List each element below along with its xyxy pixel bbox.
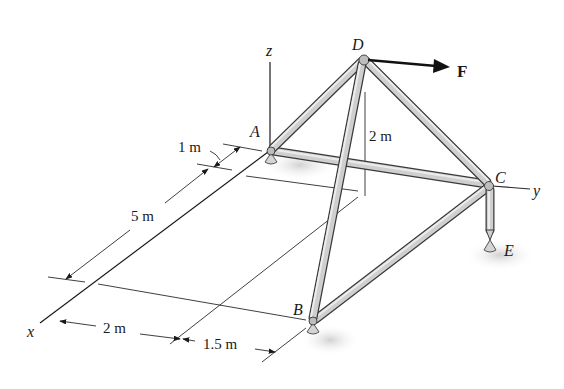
dimension-1-5m: 1.5 m <box>203 336 238 352</box>
truss-figure: z x y A B C D E F 1 m 5 m 2 m 2 m 1.5 m <box>0 0 564 389</box>
x-axis <box>40 152 268 323</box>
dimension-5m: 5 m <box>131 208 154 224</box>
member-CD <box>367 60 488 182</box>
truss-members <box>271 60 494 319</box>
member-BC <box>316 187 487 319</box>
z-axis-label: z <box>265 42 273 59</box>
joint-label-D: D <box>351 36 364 53</box>
joint-A <box>267 147 275 155</box>
joint-D <box>359 55 369 65</box>
joint-C <box>485 182 494 191</box>
force-label: F <box>457 62 467 81</box>
joint-label-C: C <box>495 169 506 186</box>
y-axis <box>492 186 530 189</box>
y-axis-label: y <box>531 182 541 200</box>
x-axis-label: x <box>26 323 34 340</box>
labels: z x y A B C D E F 1 m 5 m 2 m 2 m 1.5 m <box>26 36 541 352</box>
dimension-lines <box>60 147 275 352</box>
joint-label-B: B <box>293 301 303 318</box>
dimension-2m-height: 2 m <box>369 128 392 144</box>
dimension-1m: 1 m <box>178 139 201 155</box>
joint-label-E: E <box>503 242 514 259</box>
coordinate-axes <box>40 62 530 323</box>
member-CE <box>486 190 494 240</box>
dimension-2m-x: 2 m <box>103 320 126 336</box>
joint-B <box>309 317 317 325</box>
joint-label-A: A <box>249 123 260 140</box>
joints <box>267 55 494 325</box>
